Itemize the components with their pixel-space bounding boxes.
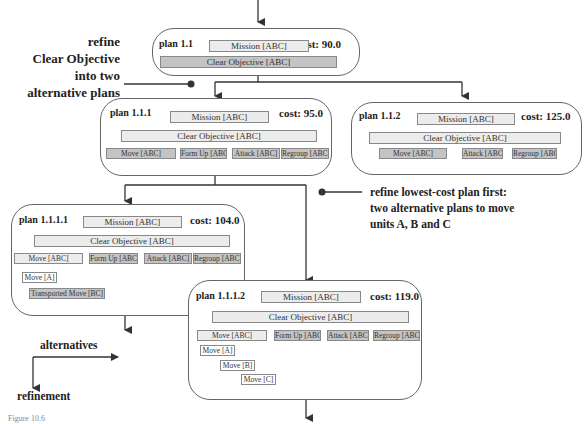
subtask-move-c: Move [C] <box>241 374 276 385</box>
plan-cost: cost: 104.0 <box>190 214 240 226</box>
subtask-move-a: Move [A] <box>200 345 235 356</box>
task-clear-objective: Clear Objective [ABC] <box>369 132 561 144</box>
plan-cost: cost: 125.0 <box>521 110 571 122</box>
task-move: Move [ABC] <box>379 148 447 159</box>
plan-label: plan 1.1.2 <box>359 110 400 121</box>
task-move: Move [ABC] <box>197 330 267 341</box>
task-clear-objective: Clear Objective [ABC] <box>160 56 337 68</box>
task-mission: Mission [ABC] <box>83 216 182 228</box>
task-mission: Mission [ABC] <box>417 113 515 125</box>
annotation-refine-objective: refine Clear Objective into two alternat… <box>28 33 120 101</box>
task-regroup: Regroup [ABC] <box>512 148 557 159</box>
task-regroup: Regroup [ABC] <box>373 330 420 341</box>
task-attack: Attack [ABC] <box>232 148 280 159</box>
plan-cost: cost: 119.0 <box>370 290 419 302</box>
legend-refinement: refinement <box>17 390 70 402</box>
task-move: Move [ABC] <box>14 253 83 264</box>
plan-cost: cost: 95.0 <box>279 107 323 119</box>
task-mission: Mission [ABC] <box>261 291 361 303</box>
task-clear-objective: Clear Objective [ABC] <box>212 311 409 323</box>
task-clear-objective: Clear Objective [ABC] <box>34 235 230 247</box>
subtask-move-a: Move [A] <box>22 272 57 283</box>
task-attack: Attack [ABC] <box>462 148 503 159</box>
task-form-up: Form Up [ABC] <box>274 330 321 341</box>
plan-label: plan 1.1.1.2 <box>196 290 245 301</box>
task-regroup: Regroup [ABC] <box>281 148 329 159</box>
plan-1-1 <box>152 28 360 76</box>
subtask-move-b: Move [B] <box>220 360 255 371</box>
task-attack: Attack [ABC] <box>144 253 192 264</box>
task-mission: Mission [ABC] <box>170 111 269 123</box>
task-form-up: Form Up [ABC] <box>89 253 138 264</box>
annotation-line: units A, B and C <box>370 216 514 232</box>
task-form-up: Form Up [ABC] <box>180 148 227 159</box>
annotation-line: refine <box>28 33 120 50</box>
annotation-line: refine lowest-cost plan first: <box>370 184 514 200</box>
subtask-transported-move-bc: Transported Move [BC] <box>29 288 105 299</box>
task-move: Move [ABC] <box>106 148 176 159</box>
task-regroup: Regroup [ABC] <box>193 253 241 264</box>
task-clear-objective: Clear Objective [ABC] <box>121 130 317 142</box>
annotation-line: two alternative plans to move <box>370 200 514 216</box>
plan-label: plan 1.1.1 <box>110 107 151 118</box>
plan-label: plan 1.1.1.1 <box>19 214 68 225</box>
annotation-line: into two <box>28 67 120 84</box>
plan-label: plan 1.1 <box>159 38 193 49</box>
task-mission: Mission [ABC] <box>209 40 309 52</box>
task-attack: Attack [ABC] <box>327 330 369 341</box>
annotation-line: Clear Objective <box>28 50 120 67</box>
annotation-line: alternative plans <box>8 84 120 101</box>
annotation-lowest-cost: refine lowest-cost plan first: two alter… <box>370 184 514 232</box>
figure-caption: Figure 10.6 <box>8 414 45 423</box>
legend-alternatives: alternatives <box>40 339 97 351</box>
